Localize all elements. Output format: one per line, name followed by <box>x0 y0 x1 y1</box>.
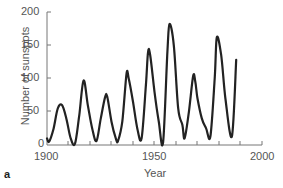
x-axis-label: Year <box>144 167 166 179</box>
y-tick-200: 200 <box>21 5 39 17</box>
x-tick-1900: 1900 <box>34 150 58 162</box>
x-tick-2000: 2000 <box>250 150 274 162</box>
y-axis <box>47 12 51 145</box>
x-axis <box>47 141 262 145</box>
y-tick-0: 0 <box>38 137 44 149</box>
sunspot-series-line <box>47 24 236 146</box>
y-axis-label: Number of sunspots <box>19 21 31 131</box>
x-tick-1950: 1950 <box>142 150 166 162</box>
panel-label: a <box>4 168 10 180</box>
